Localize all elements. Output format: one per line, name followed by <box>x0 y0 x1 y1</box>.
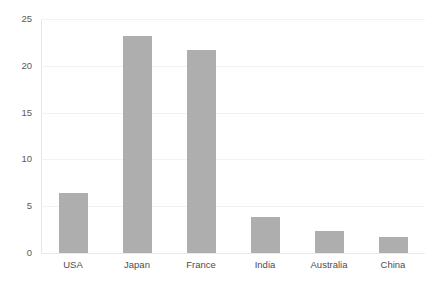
gridline-20 <box>41 66 425 67</box>
bar-india <box>251 217 280 253</box>
bar-usa <box>59 193 88 253</box>
bar-china <box>379 237 408 253</box>
y-tick-label-0: 0 <box>0 248 32 258</box>
bar-australia <box>315 231 344 253</box>
x-tick-label-india: India <box>233 260 297 270</box>
gridline-15 <box>41 113 425 114</box>
y-tick-label-15: 15 <box>0 108 32 118</box>
y-tick-label-25: 25 <box>0 14 32 24</box>
gridline-5 <box>41 206 425 207</box>
bar-france <box>187 50 216 253</box>
x-tick-label-usa: USA <box>41 260 105 270</box>
x-tick-label-australia: Australia <box>297 260 361 270</box>
gridline-0 <box>41 253 425 254</box>
x-tick-label-france: France <box>169 260 233 270</box>
bar-chart: 0510152025 USAJapanFranceIndiaAustraliaC… <box>0 0 448 285</box>
y-tick-label-10: 10 <box>0 154 32 164</box>
plot-area <box>41 19 425 253</box>
y-tick-label-5: 5 <box>0 201 32 211</box>
y-tick-label-20: 20 <box>0 61 32 71</box>
x-tick-label-china: China <box>361 260 425 270</box>
bar-japan <box>123 36 152 253</box>
gridline-10 <box>41 159 425 160</box>
gridline-25 <box>41 19 425 20</box>
x-tick-label-japan: Japan <box>105 260 169 270</box>
